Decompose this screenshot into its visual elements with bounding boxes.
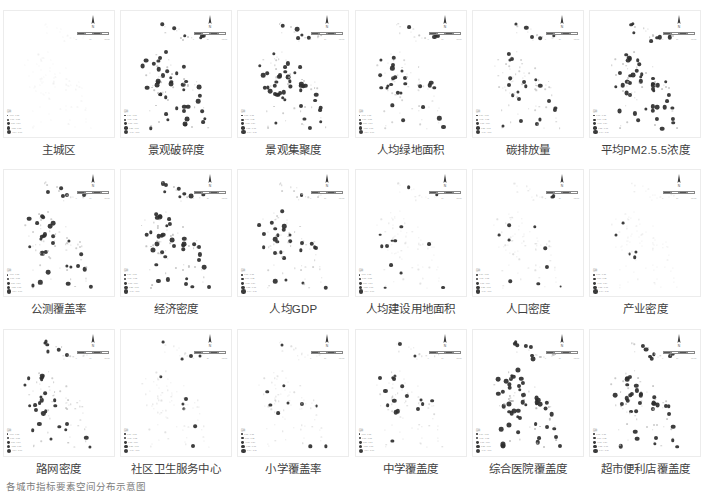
- legend-symbol: [241, 115, 243, 117]
- legend-row: 0.36 - 0.54: [241, 441, 256, 445]
- panel-label: 景观集聚度: [265, 143, 321, 157]
- map-point: [54, 240, 56, 242]
- map-point: [436, 269, 437, 270]
- map-point: [165, 69, 169, 73]
- map-point: [625, 373, 626, 374]
- map-point: [297, 355, 299, 357]
- map-point: [159, 413, 160, 414]
- map-point: [201, 429, 202, 430]
- map-point: [282, 90, 286, 94]
- map-point: [627, 122, 629, 124]
- map-point: [421, 38, 422, 39]
- legend-class-label: 0.19 - 0.35: [10, 118, 20, 121]
- map-point: [156, 279, 160, 283]
- legend-symbol: [593, 282, 596, 285]
- map-point: [626, 85, 627, 86]
- panel-label: 人均GDP: [269, 302, 317, 316]
- legend-row: 0.00 - 0.18: [241, 114, 256, 118]
- map-point: [160, 254, 161, 255]
- map-point: [280, 24, 285, 29]
- map-point: [172, 234, 174, 236]
- map-point: [619, 287, 620, 288]
- map-point: [282, 416, 283, 417]
- map-point: [625, 105, 627, 107]
- map-point: [312, 266, 314, 268]
- map-point: [421, 402, 425, 406]
- map-point: [171, 392, 172, 393]
- panel-label: 景观破碎度: [148, 143, 204, 157]
- map-point: [535, 105, 536, 106]
- legend-symbol: [359, 130, 363, 134]
- map-point: [257, 224, 261, 228]
- legend-symbol: [124, 441, 127, 444]
- map-point: [82, 95, 83, 96]
- map-point: [629, 74, 633, 78]
- legend-row: 0.55 - 0.73: [593, 445, 608, 449]
- map-point: [392, 225, 393, 226]
- map-point: [538, 83, 542, 87]
- map-point: [301, 193, 303, 195]
- map-point: [408, 346, 409, 347]
- map-point: [182, 109, 186, 113]
- scale-bar: [194, 32, 226, 35]
- map-point: [280, 411, 281, 412]
- legend-symbol: [241, 278, 243, 280]
- map-point: [165, 371, 166, 372]
- legend-row: 0.74 - 1.00: [7, 290, 22, 294]
- legend-row: 0.19 - 0.35: [593, 437, 608, 441]
- map-point: [194, 402, 195, 403]
- panel-label: 人口密度: [506, 302, 551, 316]
- map-point: [275, 400, 277, 402]
- map-point: [269, 221, 273, 225]
- map-point: [171, 394, 172, 395]
- legend-row: 0.74 - 1.00: [359, 290, 374, 294]
- legend-row: 0.00 - 0.18: [359, 432, 374, 436]
- map-point: [663, 243, 664, 244]
- map-point: [671, 439, 675, 443]
- north-arrow-scalebar: N050100 km: [545, 15, 579, 37]
- map-point: [438, 426, 439, 427]
- map-point: [53, 78, 54, 79]
- legend-class-label: 0.00 - 0.18: [596, 273, 606, 276]
- map-point: [673, 277, 674, 278]
- map-point: [150, 125, 152, 127]
- map-point: [392, 387, 393, 388]
- map-point: [299, 248, 302, 251]
- map-point: [178, 348, 179, 349]
- map-point: [27, 376, 31, 380]
- legend-class-label: 0.55 - 0.73: [12, 286, 22, 289]
- map-point: [506, 402, 511, 407]
- map-point: [675, 445, 679, 449]
- map-point: [668, 87, 670, 89]
- legend-row: 0.00 - 0.18: [124, 273, 139, 277]
- map-point: [499, 427, 504, 432]
- map-point: [285, 378, 286, 379]
- map-point: [648, 188, 649, 189]
- map-point: [498, 75, 499, 76]
- map-point: [521, 392, 525, 396]
- legend-class-label: 0.74 - 1.00: [364, 131, 374, 134]
- map-point: [509, 279, 512, 282]
- map-point: [677, 287, 678, 288]
- map-point: [53, 83, 54, 84]
- map-point: [66, 249, 67, 250]
- legend-symbol: [593, 119, 595, 121]
- scale-bar-labels: 050100 km: [76, 358, 110, 359]
- map-point: [188, 36, 190, 38]
- map-point: [516, 256, 517, 257]
- map-point: [404, 82, 407, 85]
- map-point: [640, 381, 641, 382]
- map-point: [301, 397, 302, 398]
- figure-caption: 各城市指标要素空间分布示意图: [6, 481, 146, 493]
- map-point: [514, 340, 518, 344]
- map-point: [24, 65, 25, 66]
- map-point: [304, 399, 305, 400]
- map-point: [652, 385, 654, 387]
- map-canvas: N050100 km图例0.00 - 0.180.19 - 0.350.36 -…: [3, 169, 115, 297]
- north-arrow-scalebar: N050100 km: [662, 174, 696, 196]
- legend-class-label: 0.19 - 0.35: [128, 118, 138, 121]
- map-point: [179, 355, 180, 356]
- map-point: [427, 89, 428, 90]
- map-point: [634, 409, 638, 413]
- map-point: [165, 432, 166, 433]
